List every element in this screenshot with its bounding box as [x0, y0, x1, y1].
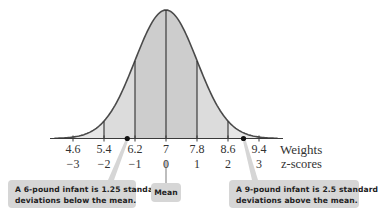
six-pound-callout-line2: deviations below the mean. [15, 195, 129, 206]
weight-tick-label: 7.8 [190, 142, 205, 157]
nine-pound-callout: A 9-pound infant is 2.5 standard deviati… [229, 180, 359, 208]
z-score-tick-label: −2 [98, 157, 111, 172]
six-pound-point [125, 136, 130, 141]
six-pound-callout: A 6-pound infant is 1.25 standard deviat… [8, 180, 136, 208]
mean-callout: Mean [151, 183, 181, 202]
z-score-tick-label: 3 [256, 157, 262, 172]
six-pound-callout-line1: A 6-pound infant is 1.25 standard [15, 184, 129, 195]
weight-tick-label: 8.6 [221, 142, 236, 157]
weights-axis-label: Weights [280, 142, 322, 158]
z-score-tick-label: 2 [225, 157, 231, 172]
weight-tick-label: 9.4 [252, 142, 267, 157]
z-score-tick-label: 1 [194, 157, 200, 172]
weight-tick-label: 7 [163, 142, 169, 157]
weight-tick-label: 6.2 [128, 142, 143, 157]
weight-tick-label: 4.6 [66, 142, 81, 157]
z-score-tick-label: 0 [163, 157, 169, 172]
z-score-tick-label: −3 [67, 157, 80, 172]
z-score-tick-label: −1 [129, 157, 142, 172]
nine-pound-callout-line1: A 9-pound infant is 2.5 standard [236, 184, 352, 195]
nine-pound-point [241, 136, 246, 141]
z-scores-axis-label: z-scores [281, 157, 322, 172]
weight-tick-label: 5.4 [97, 142, 112, 157]
nine-pound-callout-line2: deviations above the mean. [236, 195, 352, 206]
mean-callout-label: Mean [151, 187, 181, 198]
